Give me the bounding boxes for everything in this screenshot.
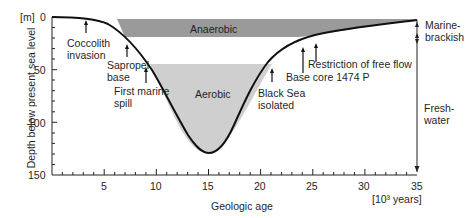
annotation-marine-brackish: Marine- brackish [425, 19, 464, 43]
x-tick-20: 20 [254, 180, 266, 192]
aerobic-label: Aerobic [195, 88, 231, 100]
annotation-freshwater: Fresh- water [424, 102, 454, 126]
annotation-base-core: Base core 1474 P [286, 71, 369, 83]
x-tick-15: 15 [202, 180, 214, 192]
x-tick-35: 35 [411, 180, 423, 192]
y-axis-label: Depth below present sea level [25, 13, 37, 183]
annotation-first-marine: First marine spill [114, 85, 169, 109]
annotation-coccolith: Coccolith invasion [67, 37, 110, 61]
x-unit-label: [10³ years] [372, 193, 422, 205]
annotation-sapropel: Sapropel base [107, 59, 149, 83]
x-tick-10: 10 [150, 180, 162, 192]
y-ticks [52, 17, 57, 165]
anaerobic-region [117, 19, 417, 37]
x-tick-30: 30 [358, 180, 370, 192]
x-axis-label: Geologic age [211, 200, 273, 212]
y-tick-0: 0 [40, 11, 46, 23]
anaerobic-label: Anaerobic [190, 23, 237, 35]
x-ticks [62, 169, 406, 175]
annotation-black-sea: Black Sea isolated [258, 87, 305, 111]
annotation-restriction: Restriction of free flow [308, 58, 412, 70]
x-tick-25: 25 [306, 180, 318, 192]
x-tick-5: 5 [101, 180, 107, 192]
